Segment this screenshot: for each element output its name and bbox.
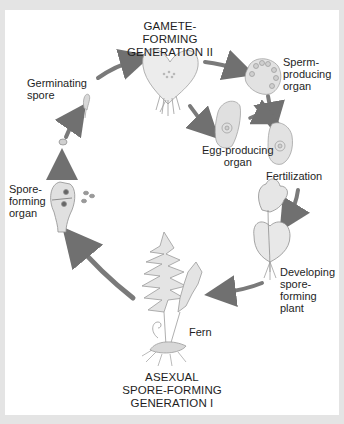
arrow-fertilization-to-developing: [288, 190, 298, 218]
sperm-organ-illustration: [245, 59, 281, 95]
fern-illustration: [142, 232, 202, 366]
fertilization-label: Fertilization: [266, 170, 322, 182]
arrow-egg-to-fertilization: [250, 116, 268, 119]
spore-illustration: [59, 139, 67, 145]
fern-label: Fern: [189, 326, 212, 338]
sporangium-illustration: [51, 182, 95, 232]
sporophyte-generation-label: ASEXUAL SPORE-FORMING GENERATION I: [112, 371, 232, 410]
arrow-fern-to-spore-organ: [75, 242, 133, 298]
arrow-gametophyte-to-egg-organ: [190, 106, 208, 128]
developing-sporophyte-illustration: [254, 179, 290, 280]
developing-plant-label: Developing spore- forming plant: [280, 266, 335, 314]
arrow-developing-to-fern: [220, 283, 262, 293]
gametophyte-generation-label: GAMETE-FORMING GENERATION II: [118, 20, 222, 59]
spore-organ-label: Spore- forming organ: [9, 183, 46, 219]
arrow-spore-to-germinating: [66, 116, 77, 137]
sperm-organ-label: Sperm- producing organ: [283, 56, 331, 92]
arrow-gametophyte-to-sperm-organ: [205, 62, 240, 70]
cycle-arrows: [62, 60, 298, 298]
egg-organ-label: Egg-producing organ: [202, 144, 274, 168]
arrow-sperm-to-fertilization: [268, 96, 272, 118]
germinating-spore-label: Germinating spore: [27, 77, 87, 101]
egg-organ-illustration: [215, 101, 240, 148]
arrow-spore-to-gametophyte: [98, 60, 136, 78]
